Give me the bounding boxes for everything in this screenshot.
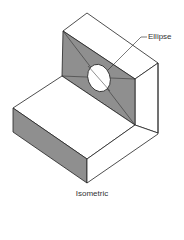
ellipse-label: Ellipse — [148, 32, 172, 41]
figure-caption: Isometric — [0, 189, 184, 198]
